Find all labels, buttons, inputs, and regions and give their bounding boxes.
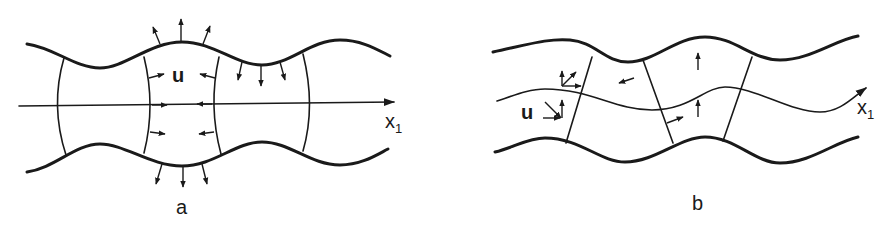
panel-b-vector-lower-diagonal xyxy=(545,102,561,118)
panel-b-section-line-3 xyxy=(723,57,752,141)
panel-b-x1-axis xyxy=(497,87,866,112)
panel-a-arrow-trough-right xyxy=(280,62,285,80)
panel-a: u x1 a xyxy=(19,19,402,218)
panel-a-caption: a xyxy=(176,196,188,218)
panel-a-arrow-top-right xyxy=(203,26,210,44)
panel-a-axis-label: x1 xyxy=(385,110,402,136)
diagram-canvas: u x1 a u x1 b xyxy=(0,0,883,228)
panel-b-section-line-2 xyxy=(643,60,673,143)
panel-a-bottom-boundary xyxy=(27,142,388,172)
panel-a-arrow-bottom-left xyxy=(156,164,162,184)
panel-b-bottom-boundary xyxy=(495,137,858,163)
panel-b-vector-upper-diagonal xyxy=(562,72,576,86)
panel-b: u x1 b xyxy=(493,36,874,214)
panel-b-caption: b xyxy=(692,192,703,214)
panel-b-arrow-sec2-lower xyxy=(667,117,683,123)
panel-a-top-boundary xyxy=(27,40,390,68)
panel-a-section-line-3 xyxy=(214,57,221,154)
panel-a-arrow-bottom-right xyxy=(202,164,207,184)
panel-a-arrow-sec3-lower xyxy=(199,132,214,134)
panel-a-vector-label: u xyxy=(172,64,184,86)
panel-b-axis-label: x1 xyxy=(857,96,874,122)
panel-a-arrow-sec2-upper xyxy=(149,74,164,78)
panel-b-section-line-1 xyxy=(566,57,592,143)
panel-b-arrow-sec2-upper xyxy=(619,78,634,83)
panel-a-section-line-1 xyxy=(57,58,66,155)
panel-a-arrow-sec2-lower xyxy=(150,132,165,134)
panel-a-arrow-trough-left xyxy=(238,62,242,80)
panel-a-arrow-sec3-upper xyxy=(200,74,215,78)
panel-b-top-boundary xyxy=(493,36,858,62)
panel-b-vector-label: u xyxy=(521,101,533,123)
panel-a-arrow-top-left xyxy=(153,27,160,44)
